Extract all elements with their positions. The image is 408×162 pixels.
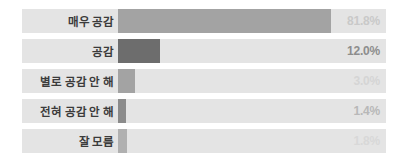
row-category-label: 전혀 공감 안 해	[22, 99, 118, 123]
row-value-label: 12.0%	[347, 39, 380, 63]
chart-row: 매우 공감 81.8%	[22, 9, 386, 33]
row-category-label: 매우 공감	[22, 9, 118, 33]
row-bar-fill	[118, 69, 135, 93]
row-bar-track: 81.8%	[118, 9, 386, 33]
chart-row: 별로 공감 안 해 3.0%	[22, 69, 386, 93]
row-category-label: 공감	[22, 39, 118, 63]
row-value-label: 1.4%	[353, 99, 380, 123]
row-bar-track: 3.0%	[118, 69, 386, 93]
row-value-label: 81.8%	[347, 9, 380, 33]
row-category-label: 별로 공감 안 해	[22, 69, 118, 93]
row-value-label: 1.8%	[353, 129, 380, 153]
chart-row: 잘 모름 1.8%	[22, 129, 386, 153]
row-bar-fill	[118, 9, 331, 33]
row-bar-track: 12.0%	[118, 39, 386, 63]
row-bar-fill	[118, 39, 160, 63]
row-value-label: 3.0%	[353, 69, 380, 93]
row-bar-track: 1.4%	[118, 99, 386, 123]
chart-row: 전혀 공감 안 해 1.4%	[22, 99, 386, 123]
chart-row: 공감 12.0%	[22, 39, 386, 63]
row-bar-track: 1.8%	[118, 129, 386, 153]
horizontal-bar-chart: 매우 공감 81.8% 공감 12.0% 별로 공감 안 해 3.0% 전혀 공…	[0, 0, 408, 162]
row-bar-fill	[118, 99, 126, 123]
row-category-label: 잘 모름	[22, 129, 118, 153]
row-bar-fill	[118, 129, 127, 153]
